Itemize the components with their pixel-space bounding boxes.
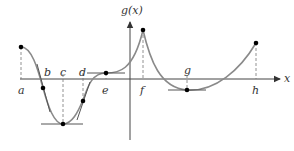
y-axis-label: g(x) — [121, 4, 143, 17]
point-a — [19, 45, 24, 50]
label-g: g — [184, 64, 191, 77]
label-b: b — [44, 66, 51, 79]
label-a: a — [18, 84, 25, 97]
point-b — [41, 86, 46, 91]
point-g — [185, 88, 190, 93]
label-h: h — [252, 84, 259, 97]
x-axis-label: x — [284, 72, 291, 85]
label-c: c — [60, 66, 66, 79]
point-c — [61, 122, 66, 127]
point-d — [81, 99, 86, 104]
point-f — [141, 28, 146, 33]
label-d: d — [79, 66, 86, 79]
function-curve — [21, 30, 256, 124]
key-points — [19, 28, 259, 127]
point-e — [104, 71, 109, 76]
point-h — [254, 41, 259, 46]
label-f: f — [139, 84, 146, 97]
label-e: e — [102, 84, 109, 97]
function-graph-diagram: x g(x) a b c d e f g h — [0, 0, 294, 151]
